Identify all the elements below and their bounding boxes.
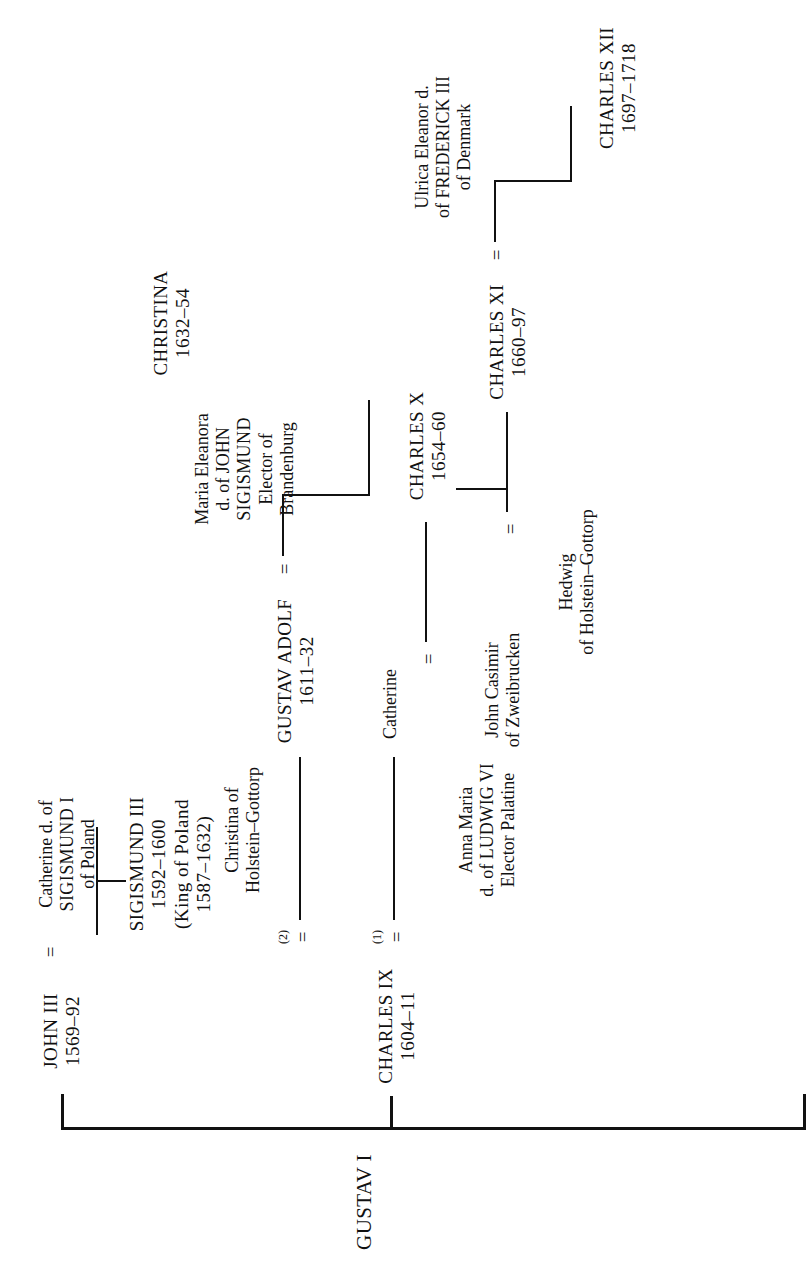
node-christina: CHRISTINA 1632–54 [150, 248, 195, 398]
marriage-equals-catherine: = [418, 648, 440, 670]
node-charles-ix: CHARLES IX 1604–11 [375, 958, 420, 1094]
john-iii-dates: 1569–92 [62, 968, 84, 1094]
node-charles-xi: CHARLES XI 1660–97 [486, 270, 531, 414]
ulrica-eleanor-line1: Ulrica Eleanor d. [412, 54, 433, 240]
marriage-2-label: (2) [276, 925, 290, 949]
marriage-order-2: (2) [276, 925, 290, 949]
charles-xi-dates: 1660–97 [508, 270, 530, 414]
issue-line-marriage-2 [299, 757, 301, 920]
john-iii-name: JOHN III [40, 968, 62, 1094]
charles-xi-name: CHARLES XI [486, 270, 508, 414]
root-bracket-spine [61, 1127, 806, 1130]
charles-x-dates: 1654–60 [428, 374, 450, 518]
node-catherine-of-poland: Catherine d. of SIGISMUND I of Poland [36, 774, 100, 934]
anna-maria-line1: Anna Maria [456, 742, 477, 918]
node-catherine: Catherine [380, 656, 401, 752]
charles-xii-dates: 1697–1718 [618, 10, 640, 166]
node-sigismund-iii: SIGISMUND III 1592–1600 (King of Poland … [126, 778, 216, 950]
node-christina-of-holstein-gottorp: Christina of Holstein–Gottorp [222, 742, 264, 918]
equals-sign: = [40, 942, 62, 962]
john-casimir-line1: John Casimir [482, 600, 503, 780]
christina-holstein-line2: Holstein–Gottorp [243, 742, 264, 918]
john-casimir-line2: of Zweibrucken [503, 600, 524, 780]
equals-sign: = [500, 518, 522, 540]
maria-eleanora-line5: Brandenburg [277, 384, 298, 554]
equals-sign: = [292, 925, 314, 949]
christina-name: CHRISTINA [150, 248, 172, 398]
node-hedwig: Hedwig of Holstein–Gottorp [556, 474, 598, 690]
sigismund-iii-poland-line1: (King of Poland [171, 778, 193, 950]
node-gustav-adolf: GUSTAV ADOLF 1611–32 [274, 586, 319, 756]
node-john-iii: JOHN III 1569–92 [40, 968, 85, 1094]
marriage-order-1: (1) [370, 925, 384, 949]
hedwig-line2: of Holstein–Gottorp [577, 474, 598, 690]
maria-eleanora-line3: SIGISMUND [234, 384, 255, 554]
issue-line-charles-xi [494, 180, 496, 242]
issue-drop-john-iii [96, 880, 126, 882]
node-john-casimir: John Casimir of Zweibrucken [482, 600, 524, 780]
marriage-equals-gustav-adolf: = [274, 558, 296, 580]
sigismund-iii-name: SIGISMUND III [126, 778, 148, 950]
node-charles-x: CHARLES X 1654–60 [406, 374, 451, 518]
catherine-name: Catherine [380, 656, 401, 752]
christina-holstein-line1: Christina of [222, 742, 243, 918]
issue-line-john-casimir [425, 522, 427, 642]
sigismund-iii-dates: 1592–1600 [148, 778, 170, 950]
marriage-equals-charles-xi: = [486, 244, 508, 266]
hedwig-line1: Hedwig [556, 474, 577, 690]
issue-drop-charles-x [456, 488, 508, 490]
node-charles-xii: CHARLES XII 1697–1718 [596, 10, 641, 166]
gustav-adolf-dates: 1611–32 [296, 586, 318, 756]
ulrica-eleanor-line3: of Denmark [454, 54, 475, 240]
root-bracket-stem [390, 1096, 393, 1130]
marriage-equals-charles-ix-1: = [386, 925, 408, 949]
root-bracket-arm-top [61, 1094, 64, 1130]
sigismund-iii-poland-line2: 1587–1632) [193, 778, 215, 950]
charles-x-name: CHARLES X [406, 374, 428, 518]
issue-drop-gustav-adolf [282, 494, 370, 496]
marriage-equals-charles-x: = [500, 518, 522, 540]
ulrica-eleanor-line2: of FREDERICK III [433, 54, 454, 240]
root-bracket-arm-bottom [803, 1094, 806, 1130]
equals-sign: = [418, 648, 440, 670]
catherine-poland-line1: Catherine d. of [36, 774, 57, 934]
equals-sign: = [274, 558, 296, 580]
issue-line-marriage-1 [393, 757, 395, 920]
maria-eleanora-line2: d. of JOHN [213, 384, 234, 554]
marriage-1-label: (1) [370, 925, 384, 949]
issue-line-gustav-adolf [282, 494, 284, 556]
catherine-poland-line2: SIGISMUND I [57, 774, 78, 934]
marriage-equals-john-iii: = [40, 942, 62, 962]
marriage-equals-charles-ix-2: = [292, 925, 314, 949]
node-ulrica-eleanor: Ulrica Eleanor d. of FREDERICK III of De… [412, 54, 476, 240]
maria-eleanora-line1: Maria Eleanora [192, 384, 213, 554]
issue-drop-charles-xi [494, 180, 572, 182]
equals-sign: = [386, 925, 408, 949]
node-gustav-i: GUSTAV I [352, 1142, 377, 1262]
christina-dates: 1632–54 [172, 248, 194, 398]
gustav-adolf-name: GUSTAV ADOLF [274, 586, 296, 756]
issue-line-charles-x [506, 412, 508, 512]
issue-line-charles-xii [570, 106, 572, 182]
charles-xii-name: CHARLES XII [596, 10, 618, 166]
issue-line-christina [368, 400, 370, 496]
equals-sign: = [486, 244, 508, 266]
charles-ix-dates: 1604–11 [397, 958, 419, 1094]
gustav-i-name: GUSTAV I [352, 1142, 377, 1262]
maria-eleanora-line4: Elector of [256, 384, 277, 554]
charles-ix-name: CHARLES IX [375, 958, 397, 1094]
